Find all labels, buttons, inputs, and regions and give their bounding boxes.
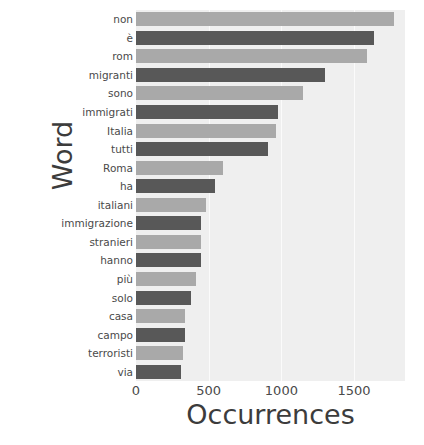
bar [136,365,181,379]
y-tick-label: via [0,366,133,378]
y-tick-label: migranti [0,69,133,81]
y-tick-label: casa [0,310,133,322]
bar [136,198,206,212]
y-tick-label: stranieri [0,236,133,248]
y-tick-label: solo [0,292,133,304]
bar [136,142,268,156]
gridline-500 [209,10,210,381]
bar [136,12,394,26]
gridline-1000 [281,10,282,381]
bar [136,161,223,175]
y-tick-label: immigrazione [0,217,133,229]
x-axis-tick-labels: 050010001500 [0,383,424,399]
y-tick-label: italiani [0,199,133,211]
x-tick-label: 1000 [265,383,298,398]
y-axis-tick-labels: nonèrommigrantisonoimmigratiItaliatuttiR… [0,10,133,381]
bar [136,272,196,286]
bar [136,49,367,63]
x-axis-title: Occurrences [136,399,405,430]
y-tick-label: Roma [0,162,133,174]
y-tick-label: ha [0,180,133,192]
bar-chart-figure: Word nonèrommigrantisonoimmigratiItaliat… [0,0,424,445]
y-tick-label: non [0,13,133,25]
y-tick-label: Italia [0,125,133,137]
bar [136,105,278,119]
y-tick-label: campo [0,329,133,341]
x-tick-label: 500 [196,383,221,398]
bar [136,86,303,100]
bar [136,124,276,138]
bar [136,346,183,360]
bar [136,179,215,193]
y-tick-label: terroristi [0,347,133,359]
x-tick-label: 1500 [338,383,371,398]
plot-area [136,10,405,381]
bar [136,31,374,45]
y-tick-label: è [0,32,133,44]
y-tick-label: sono [0,87,133,99]
bar [136,216,201,230]
y-tick-label: hanno [0,254,133,266]
bar [136,309,185,323]
bar [136,253,201,267]
y-tick-label: rom [0,50,133,62]
bar [136,68,325,82]
bar [136,328,185,342]
bar [136,291,191,305]
bar [136,235,201,249]
gridline-1500 [354,10,355,381]
y-tick-label: immigrati [0,106,133,118]
y-tick-label: più [0,273,133,285]
x-tick-label: 0 [132,383,140,398]
y-tick-label: tutti [0,143,133,155]
